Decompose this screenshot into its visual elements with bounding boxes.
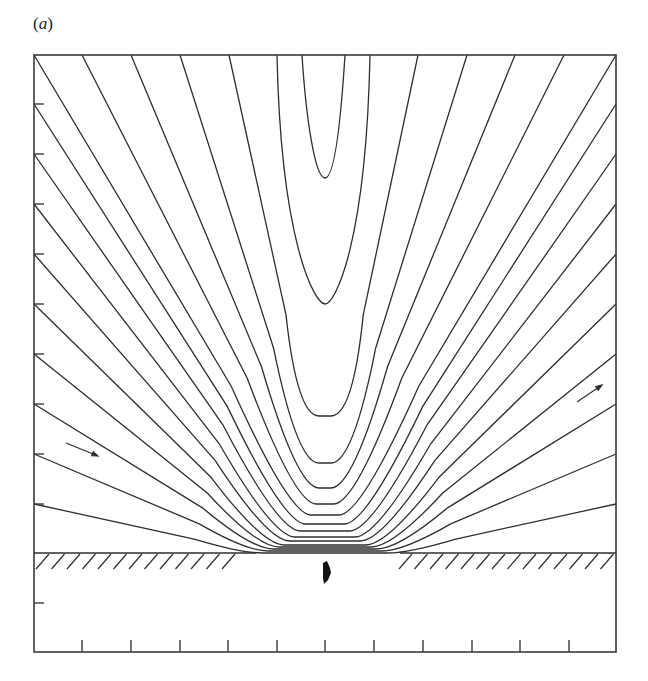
wall-hatch — [415, 554, 428, 569]
arrowhead-icon — [92, 452, 98, 456]
wall-hatch — [114, 554, 127, 569]
streamline-diagram — [0, 0, 648, 681]
streamline — [277, 55, 370, 304]
streamline — [34, 154, 616, 531]
wall-hatch — [539, 554, 552, 569]
wall-hatch — [430, 554, 443, 569]
wall-hatch — [601, 554, 614, 569]
wall-hatch — [176, 554, 189, 569]
wall-hatch — [570, 554, 583, 569]
wall-hatch — [222, 554, 235, 569]
wall-hatch — [461, 554, 474, 569]
wall-hatch — [207, 554, 220, 569]
wall-hatch — [52, 554, 65, 569]
wall-hatch — [160, 554, 173, 569]
wall-hatch — [585, 554, 598, 569]
wall-hatch — [446, 554, 459, 569]
wall-hatch — [191, 554, 204, 569]
wall-hatch — [98, 554, 111, 569]
streamlines — [34, 55, 616, 553]
wall-hatch — [36, 554, 49, 569]
axis-ticks — [34, 104, 569, 652]
streamline — [302, 55, 345, 178]
streamline — [34, 104, 616, 524]
streamline — [34, 254, 616, 541]
streamline — [131, 55, 515, 488]
wall-hatch — [508, 554, 521, 569]
wall-hatch — [83, 554, 96, 569]
wall-hatch — [67, 554, 80, 569]
streamline — [82, 55, 564, 504]
wall-hatch — [492, 554, 505, 569]
streamline — [34, 204, 616, 537]
wall-hatch — [523, 554, 536, 569]
object-below-gap — [323, 561, 331, 584]
arrowhead-icon — [596, 385, 602, 390]
streamline — [180, 55, 467, 463]
wall-hatch — [399, 554, 412, 569]
wall-hatch — [129, 554, 142, 569]
wall-hatch — [554, 554, 567, 569]
wall-hatch — [477, 554, 490, 569]
streamline — [34, 354, 616, 547]
streamline — [34, 404, 616, 549]
wall-hatch — [145, 554, 158, 569]
